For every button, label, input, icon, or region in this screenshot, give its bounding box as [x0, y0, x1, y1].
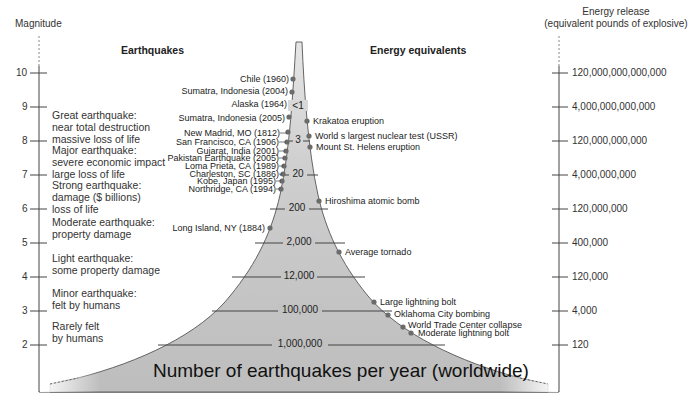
category-line: by humans: [52, 332, 103, 344]
category-line: Rarely felt: [52, 320, 103, 332]
energy-tick: 4,000: [572, 305, 597, 316]
earthquake-label: Alaska (1964): [231, 99, 287, 109]
energy-tick: 120,000,000,000,000: [572, 67, 667, 78]
magnitude-tick: 7: [22, 169, 28, 180]
category-strong: Strong earthquake: damage ($ billions) l…: [52, 179, 141, 215]
category-line: some property damage: [52, 264, 160, 276]
energy-tick: 400,000: [572, 237, 608, 248]
earthquake-label: Sumatra, Indonesia (2005): [178, 113, 285, 123]
category-great: Great earthquake: near total destruction…: [52, 109, 150, 145]
category-minor: Minor earthquake: felt by humans: [52, 287, 137, 311]
category-line: felt by humans: [52, 299, 137, 311]
left-axis: [30, 36, 47, 392]
category-line: Light earthquake:: [52, 252, 160, 264]
earthquake-label: Northridge, CA (1994): [188, 184, 276, 194]
category-line: Moderate earthquake:: [52, 216, 155, 228]
category-line: severe economic impact: [52, 156, 165, 168]
magnitude-tick: 4: [22, 271, 28, 282]
frequency-label: <1: [288, 100, 308, 111]
energy-label: Moderate lightning bolt: [418, 328, 509, 338]
earthquake-label: Chile (1960): [240, 74, 289, 84]
category-line: Minor earthquake:: [52, 287, 137, 299]
category-line: Strong earthquake:: [52, 179, 141, 191]
magnitude-tick: 10: [16, 67, 27, 78]
magnitude-tick: 8: [22, 135, 28, 146]
energy-label: World s largest nuclear test (USSR): [315, 131, 457, 141]
frequency-label: 2,000: [283, 236, 315, 247]
category-rarely-felt: Rarely felt by humans: [52, 320, 103, 344]
right-axis-label-line1: Energy release: [531, 6, 692, 17]
energy-tick: 120,000,000,000: [572, 135, 647, 146]
magnitude-tick: 9: [22, 101, 28, 112]
category-line: near total destruction: [52, 121, 150, 133]
frequency-label: 20: [289, 168, 307, 179]
earthquake-label: Long Island, NY (1884): [173, 223, 265, 233]
category-line: damage ($ billions): [52, 191, 141, 203]
category-line: Major earthquake:: [52, 144, 165, 156]
frequency-label: 200: [285, 202, 309, 213]
right-axis: [552, 36, 568, 392]
category-line: loss of life: [52, 203, 141, 215]
energy-tick: 4,000,000,000: [572, 169, 636, 180]
frequency-label: 12,000: [281, 270, 317, 281]
frequency-label: 1,000,000: [272, 338, 328, 349]
frequency-label: 3: [293, 134, 303, 145]
left-axis-label: Magnitude: [15, 18, 62, 29]
fade-left: [40, 360, 100, 392]
energy-label: Large lightning bolt: [380, 297, 456, 307]
energy-tick: 120: [572, 339, 589, 350]
energy-header: Energy equivalents: [370, 44, 466, 56]
energy-label: Oklahoma City bombing: [394, 309, 490, 319]
energy-label: Average tornado: [345, 247, 411, 257]
footer-label: Number of earthquakes per year (worldwid…: [153, 360, 529, 382]
frequency-label: 100,000: [278, 304, 322, 315]
energy-tick: 120,000,000: [572, 203, 628, 214]
energy-label: Mount St. Helens eruption: [316, 142, 420, 152]
magnitude-tick: 6: [22, 203, 28, 214]
category-line: Great earthquake:: [52, 109, 150, 121]
category-line: property damage: [52, 228, 155, 240]
magnitude-tick: 2: [22, 339, 28, 350]
earthquakes-header: Earthquakes: [121, 44, 184, 56]
earthquake-label: Sumatra, Indonesia (2004): [181, 86, 288, 96]
energy-tick: 120,000: [572, 271, 608, 282]
category-moderate: Moderate earthquake: property damage: [52, 216, 155, 240]
magnitude-tick: 3: [22, 305, 28, 316]
energy-tick: 4,000,000,000,000: [572, 101, 655, 112]
energy-label: Krakatoa eruption: [313, 116, 384, 126]
right-axis-label-line2: (equivalent pounds of explosive): [531, 18, 692, 29]
energy-label: Hiroshima atomic bomb: [325, 196, 420, 206]
category-major: Major earthquake: severe economic impact…: [52, 144, 165, 180]
magnitude-tick: 5: [22, 237, 28, 248]
category-light: Light earthquake: some property damage: [52, 252, 160, 276]
